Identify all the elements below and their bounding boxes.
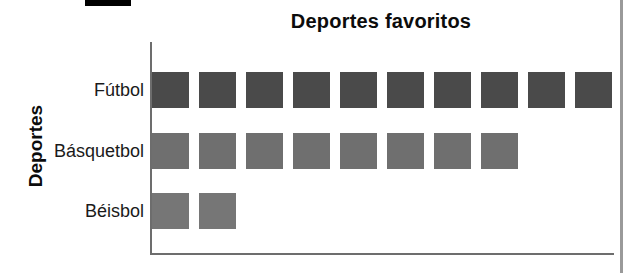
pictograph-square-futbol-5 — [340, 72, 377, 108]
pictograph-row-futbol — [152, 72, 622, 108]
pictograph-square-basquetbol-6 — [387, 133, 424, 169]
pictograph-square-futbol-6 — [387, 72, 424, 108]
pictograph-square-beisbol-1 — [152, 193, 189, 229]
pictograph-figure: Deportes favoritos Deportes Fútbol Básqu… — [0, 0, 635, 273]
pictograph-square-basquetbol-4 — [293, 133, 330, 169]
pictograph-square-futbol-1 — [152, 72, 189, 108]
pictograph-square-futbol-10 — [575, 72, 612, 108]
plot-area — [152, 0, 622, 273]
pictograph-square-futbol-7 — [434, 72, 471, 108]
pictograph-square-basquetbol-1 — [152, 133, 189, 169]
pictograph-square-futbol-2 — [199, 72, 236, 108]
category-labels-column: Fútbol Básquetbol Béisbol — [22, 0, 144, 273]
category-label-beisbol: Béisbol — [24, 201, 144, 222]
pictograph-square-basquetbol-7 — [434, 133, 471, 169]
pictograph-square-futbol-9 — [528, 72, 565, 108]
pictograph-square-basquetbol-3 — [246, 133, 283, 169]
category-label-basquetbol: Básquetbol — [24, 141, 144, 162]
pictograph-square-basquetbol-5 — [340, 133, 377, 169]
pictograph-square-futbol-3 — [246, 72, 283, 108]
pictograph-square-futbol-8 — [481, 72, 518, 108]
pictograph-square-basquetbol-8 — [481, 133, 518, 169]
pictograph-square-beisbol-2 — [199, 193, 236, 229]
pictograph-row-basquetbol — [152, 133, 528, 169]
category-label-futbol: Fútbol — [24, 80, 144, 101]
pictograph-square-basquetbol-2 — [199, 133, 236, 169]
pictograph-row-beisbol — [152, 193, 246, 229]
pictograph-square-futbol-4 — [293, 72, 330, 108]
